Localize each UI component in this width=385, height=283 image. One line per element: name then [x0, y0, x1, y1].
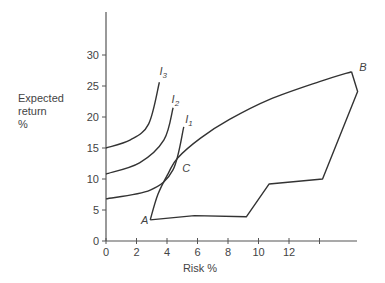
x-tick-label: 4: [164, 246, 170, 258]
risk-return-chart: 024681012051015202530 ABCI1I2I3 Risk %: [0, 0, 385, 283]
series-i1-curve: [106, 127, 184, 199]
x-tick-label: 10: [252, 246, 264, 258]
annotation-i1: I1: [185, 113, 193, 128]
annotation-b: B: [359, 61, 366, 73]
x-tick-label: 8: [225, 246, 231, 258]
x-tick-label: 12: [283, 246, 295, 258]
x-tick-label: 2: [133, 246, 139, 258]
y-tick-label: 25: [87, 80, 99, 92]
series-i2-curve: [106, 108, 173, 174]
annotation-i2: I2: [172, 93, 180, 108]
y-tick-label: 10: [87, 173, 99, 185]
x-tick-label: 0: [103, 246, 109, 258]
y-tick-label: 5: [93, 204, 99, 216]
x-tick-label: 6: [194, 246, 200, 258]
series-i3-curve: [106, 82, 159, 148]
y-tick-label: 15: [87, 142, 99, 154]
series-lower-boundary: [150, 72, 357, 220]
x-axis-label: Risk %: [183, 262, 217, 274]
annotation-c: C: [182, 162, 190, 174]
series-group: [106, 72, 358, 220]
annotation-a: A: [140, 214, 148, 226]
annotations: ABCI1I2I3: [140, 61, 366, 226]
annotation-i3: I3: [159, 65, 167, 80]
y-tick-label: 0: [93, 235, 99, 247]
axes: 024681012051015202530: [87, 12, 357, 258]
y-tick-label: 20: [87, 111, 99, 123]
y-tick-label: 30: [87, 49, 99, 61]
